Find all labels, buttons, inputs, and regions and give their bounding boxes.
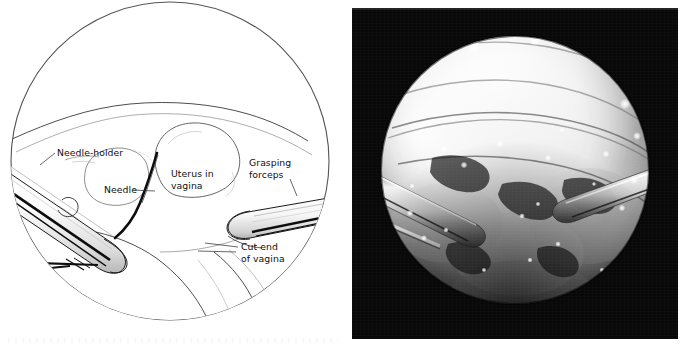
label-uterus-line1: Uterus in [171,168,214,179]
label-forceps-line1: Grasping [249,157,291,168]
photograph-panel [352,8,678,339]
photograph-svg [352,8,678,339]
label-forceps-line2: forceps [249,169,284,180]
label-needle: Needle [104,184,137,195]
label-cut-end-line1: Cut end [241,241,278,252]
photo-top-edge-line [352,8,678,10]
line-drawing-svg: Needle-holder Needle Uterus in vagina Gr… [0,0,340,347]
label-cut-end-line2: of vagina [241,253,285,264]
label-needle-holder: Needle-holder [57,147,123,158]
line-drawing-panel: Needle-holder Needle Uterus in vagina Gr… [0,0,340,347]
label-uterus-line2: vagina [171,180,203,191]
surgical-figure: Needle-holder Needle Uterus in vagina Gr… [0,0,681,347]
